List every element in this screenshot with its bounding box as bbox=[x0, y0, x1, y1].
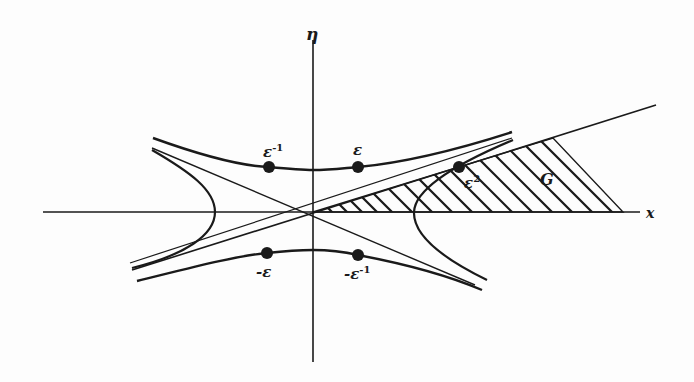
label-eps-inv-base: ε bbox=[263, 143, 272, 161]
label-eps-base: ε bbox=[353, 141, 362, 159]
point-neg-eps bbox=[261, 247, 273, 259]
label-neg-eps-inv-sup: -1 bbox=[359, 264, 370, 275]
label-eps-inv-sup: -1 bbox=[272, 142, 283, 153]
label-neg-eps: -ε bbox=[256, 265, 271, 280]
diagram-svg bbox=[0, 0, 694, 382]
label-neg-eps-inv-base: -ε bbox=[344, 265, 359, 283]
point-neg-eps-inv bbox=[352, 249, 364, 261]
label-eps-sq-sup: 2 bbox=[473, 173, 480, 184]
region-g-hatching bbox=[300, 118, 640, 220]
label-neg-eps-inv: -ε-1 bbox=[344, 265, 370, 282]
label-eps-sq-base: ε bbox=[464, 174, 473, 192]
diagram-canvas: η x G ε-1 ε -ε -ε-1 ε2 bbox=[0, 0, 694, 382]
label-eps-inv: ε-1 bbox=[263, 143, 283, 160]
left-hyperbola-branch bbox=[132, 150, 215, 268]
label-neg-eps-base: -ε bbox=[256, 263, 271, 281]
region-g-label: G bbox=[540, 172, 554, 188]
point-eps bbox=[352, 161, 364, 173]
y-axis-label: η bbox=[306, 26, 318, 43]
lower-hyperbola bbox=[137, 250, 482, 290]
asymptote-long bbox=[132, 105, 656, 270]
x-axis-label: x bbox=[646, 206, 654, 220]
asymptote-near bbox=[130, 138, 512, 263]
label-eps: ε bbox=[353, 143, 362, 158]
point-eps-sq bbox=[453, 161, 465, 173]
label-eps-sq: ε2 bbox=[464, 174, 480, 191]
point-eps-inv bbox=[263, 161, 275, 173]
